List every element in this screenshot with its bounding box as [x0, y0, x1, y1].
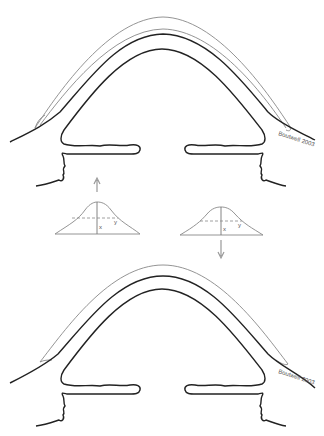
top-inner-layer-and-lids	[36, 49, 286, 186]
bottom-eye-figure: Boutwell 2003	[10, 265, 316, 426]
right-x-label: x	[223, 226, 226, 232]
left-x-label: x	[99, 224, 102, 230]
right-down-arrow	[218, 240, 224, 258]
left-up-arrow	[94, 178, 100, 192]
bottom-credit-label: Boutwell 2003	[278, 368, 316, 386]
left-bell-curve: x y	[55, 178, 140, 234]
right-bell-curve: x y	[180, 207, 263, 258]
left-y-label: y	[114, 219, 117, 225]
top-eye-figure: Boutwell 2003	[10, 17, 316, 186]
bottom-thick-layer	[10, 276, 315, 388]
top-thick-layer	[10, 34, 315, 142]
right-y-label: y	[238, 222, 241, 228]
top-credit-label: Boutwell 2003	[278, 130, 316, 148]
bottom-inner-layer-and-lids	[36, 289, 286, 426]
bottom-outer-thin-layer	[40, 265, 288, 365]
eye-diagram: Boutwell 2003 x y x y Boutwell 2003	[0, 0, 324, 436]
